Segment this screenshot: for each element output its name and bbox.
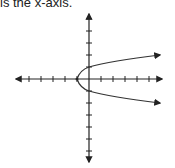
vertex-point: [76, 78, 79, 81]
coordinate-plane: [0, 0, 175, 168]
